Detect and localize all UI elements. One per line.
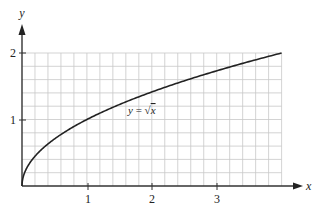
- curve-label: y = √x: [127, 104, 156, 116]
- x-tick-2: 2: [149, 192, 155, 206]
- chart-canvas: x 1 2 3 y 1 2 y = √x: [0, 0, 318, 213]
- x-axis-arrow-icon: [293, 183, 303, 190]
- y-axis-arrow-icon: [19, 24, 26, 35]
- y-tick-1: 1: [10, 113, 16, 127]
- y-axis-label: y: [18, 6, 25, 20]
- x-axis-label: x: [305, 179, 312, 193]
- x-tick-3: 3: [214, 192, 220, 206]
- x-tick-1: 1: [85, 192, 91, 206]
- y-tick-2: 2: [10, 46, 16, 60]
- grid: [22, 53, 282, 186]
